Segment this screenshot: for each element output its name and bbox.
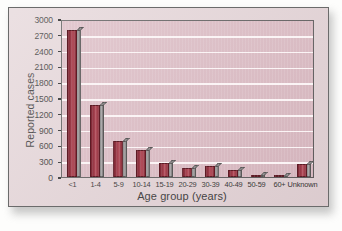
y-axis-tick-label: 2400 — [9, 47, 53, 57]
bar-front-face — [228, 170, 238, 177]
y-axis-tick-label: 900 — [9, 126, 53, 136]
bar-top-face — [146, 147, 153, 150]
bar-side-face — [146, 150, 150, 177]
bar-side-face — [77, 30, 81, 177]
bar-side-face — [100, 105, 104, 177]
y-axis-tick-label: 300 — [9, 157, 53, 167]
y-axis-tick — [58, 114, 61, 115]
bar-series — [62, 21, 313, 177]
plot-area — [61, 20, 314, 178]
y-axis-tick-label: 1500 — [9, 94, 53, 104]
bar-side-face — [307, 164, 311, 177]
bar — [159, 160, 173, 177]
y-axis-tick — [58, 130, 61, 131]
bar — [228, 167, 242, 177]
bar-side-face — [192, 168, 196, 177]
y-axis-tick — [58, 51, 61, 52]
bar — [67, 27, 81, 177]
x-axis-tick-label: Unknown — [283, 180, 323, 189]
y-axis-tick — [58, 98, 61, 99]
bar-front-face — [297, 164, 307, 177]
bar-side-face — [238, 170, 242, 177]
bar-front-face — [274, 175, 284, 177]
y-axis-tick — [58, 177, 61, 178]
bar — [136, 147, 150, 177]
y-axis-tick-label: 1800 — [9, 78, 53, 88]
bar-top-face — [100, 102, 107, 105]
bar-side-face — [123, 141, 127, 177]
bar-front-face — [182, 168, 192, 177]
bar-side-face — [169, 163, 173, 177]
y-axis-tick-label: 3000 — [9, 15, 53, 25]
bar — [182, 165, 196, 177]
bar-top-face — [307, 161, 314, 164]
bar-front-face — [67, 30, 77, 177]
bar-top-face — [192, 165, 199, 168]
y-axis-tick — [58, 83, 61, 84]
bar-front-face — [90, 105, 100, 177]
bar — [90, 102, 104, 177]
bar-top-face — [261, 172, 268, 175]
bar-top-face — [123, 138, 130, 141]
bar-front-face — [113, 141, 123, 177]
y-axis-tick — [58, 67, 61, 68]
bar-chart-figure: Reported cases Age group (years) 0300600… — [8, 7, 329, 207]
y-axis-tick-label: 600 — [9, 141, 53, 151]
bar — [113, 138, 127, 177]
bar-front-face — [136, 150, 146, 177]
bar-top-face — [169, 160, 176, 163]
x-axis-title: Age group (years) — [53, 190, 311, 202]
scanned-page: Reported cases Age group (years) 0300600… — [0, 0, 342, 231]
bar — [274, 173, 288, 177]
bar-front-face — [205, 166, 215, 177]
bar-side-face — [215, 166, 219, 177]
y-axis-tick — [58, 146, 61, 147]
y-axis-tick — [58, 35, 61, 36]
y-axis-tick-label: 2700 — [9, 31, 53, 41]
bar — [297, 161, 311, 177]
bar-front-face — [251, 175, 261, 177]
bar-side-face — [261, 175, 265, 177]
y-axis-tick — [58, 19, 61, 20]
y-axis-tick — [58, 162, 61, 163]
bar-top-face — [215, 163, 222, 166]
y-axis-tick-label: 0 — [9, 173, 53, 183]
bar-front-face — [159, 163, 169, 177]
bar — [251, 172, 265, 177]
bar-top-face — [77, 27, 84, 30]
y-axis-tick-label: 1200 — [9, 110, 53, 120]
bar-top-face — [238, 167, 245, 170]
bar-top-face — [284, 173, 291, 176]
bar — [205, 163, 219, 177]
y-axis-tick-label: 2100 — [9, 62, 53, 72]
